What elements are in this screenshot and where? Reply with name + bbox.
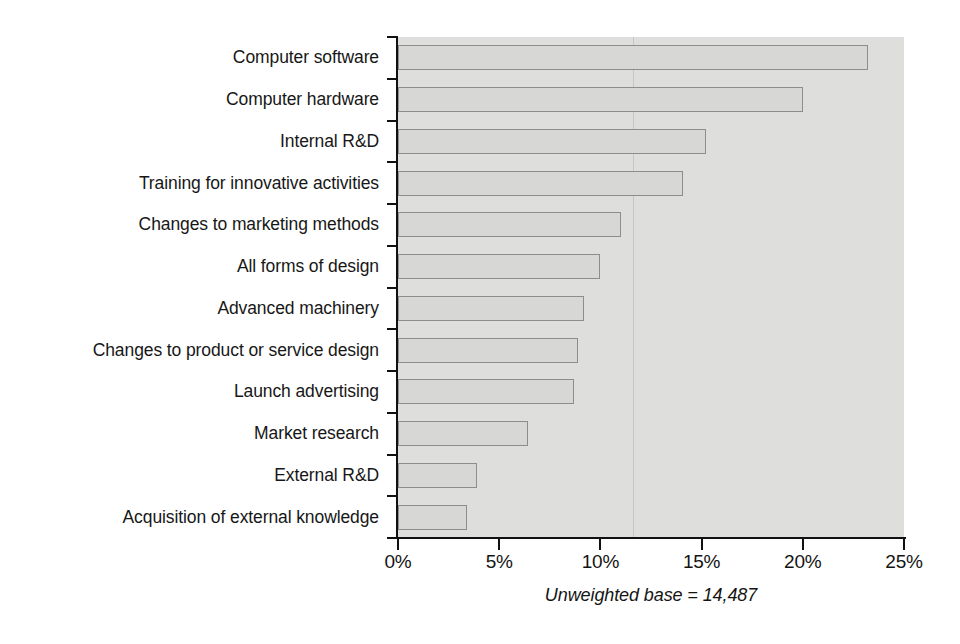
bar-row <box>398 455 904 497</box>
bar <box>398 421 528 446</box>
y-axis-tick <box>387 245 396 247</box>
x-axis-tick-label: 5% <box>486 551 513 573</box>
bar <box>398 212 621 237</box>
x-axis-tick <box>903 539 905 550</box>
x-axis-tick-labels: 0%5%10%15%20%25% <box>398 551 904 579</box>
x-axis-tick-label: 20% <box>784 551 821 573</box>
x-axis-tick <box>701 539 703 550</box>
bar-row <box>398 371 904 413</box>
x-axis-tick <box>498 539 500 550</box>
y-axis-tick <box>387 412 396 414</box>
category-label: Advanced machinery <box>0 288 390 330</box>
bar-row <box>398 329 904 371</box>
bar-row <box>398 162 904 204</box>
category-label: Changes to product or service design <box>0 329 390 371</box>
plot-area <box>398 37 904 538</box>
bar <box>398 45 868 70</box>
category-label: Acquisition of external knowledge <box>0 496 390 538</box>
category-label: Market research <box>0 413 390 455</box>
bar <box>398 129 706 154</box>
y-axis-tick <box>387 495 396 497</box>
bar-series <box>398 37 904 538</box>
x-axis-tick <box>802 539 804 550</box>
category-label: External R&D <box>0 455 390 497</box>
category-label: Internal R&D <box>0 121 390 163</box>
x-axis-tick-label: 10% <box>582 551 619 573</box>
category-label: All forms of design <box>0 246 390 288</box>
y-axis-tick <box>387 161 396 163</box>
y-axis-tick <box>387 78 396 80</box>
x-axis-ticks <box>398 539 904 551</box>
bar-row <box>398 79 904 121</box>
x-axis-tick <box>397 539 399 550</box>
bar-row <box>398 413 904 455</box>
x-axis-tick-label: 25% <box>885 551 922 573</box>
y-axis-ticks <box>396 36 398 539</box>
bar <box>398 87 803 112</box>
y-axis-tick <box>387 537 396 539</box>
category-label: Computer hardware <box>0 79 390 121</box>
y-axis-tick <box>387 287 396 289</box>
bar-chart-figure: Computer software Computer hardware Inte… <box>0 0 960 644</box>
category-label: Launch advertising <box>0 371 390 413</box>
bar-row <box>398 246 904 288</box>
bar <box>398 171 683 196</box>
bar-row <box>398 288 904 330</box>
x-axis-tick-label: 15% <box>683 551 720 573</box>
category-label: Training for innovative activities <box>0 162 390 204</box>
y-axis-tick <box>387 328 396 330</box>
bar <box>398 463 477 488</box>
y-axis-tick <box>387 454 396 456</box>
category-label: Changes to marketing methods <box>0 204 390 246</box>
bar-row <box>398 37 904 79</box>
bar <box>398 254 600 279</box>
bar-row <box>398 204 904 246</box>
y-axis-tick <box>387 36 396 38</box>
bar <box>398 379 574 404</box>
y-axis-tick <box>387 203 396 205</box>
x-axis-tick <box>599 539 601 550</box>
y-axis-tick <box>387 370 396 372</box>
bar-row <box>398 121 904 163</box>
bar <box>398 505 467 530</box>
bar <box>398 296 584 321</box>
bar-row <box>398 496 904 538</box>
category-label: Computer software <box>0 37 390 79</box>
category-axis-labels: Computer software Computer hardware Inte… <box>0 37 390 538</box>
x-axis-tick-label: 0% <box>384 551 411 573</box>
chart-caption: Unweighted base = 14,487 <box>398 585 904 606</box>
y-axis-tick <box>387 120 396 122</box>
bar <box>398 338 578 363</box>
